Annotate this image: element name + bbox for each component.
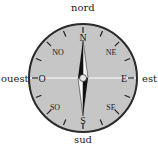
dial-label-e: E	[121, 73, 127, 84]
dial-label-se: SE	[106, 103, 115, 112]
label-ouest: ouest	[1, 73, 29, 84]
label-sud: sud	[74, 134, 92, 145]
dial-label-w: O	[38, 73, 45, 84]
dial-label-sw: SO	[50, 103, 60, 112]
label-nord: nord	[71, 2, 95, 13]
dial-label-s: S	[80, 115, 86, 126]
dial-label-ne: NE	[106, 48, 117, 57]
compass-diagram: N S O E NE NO SE SO nord sud ouest est	[0, 0, 158, 148]
dial-label-nw: NO	[52, 48, 64, 57]
label-est: est	[142, 73, 157, 84]
needle-pivot	[80, 75, 87, 82]
